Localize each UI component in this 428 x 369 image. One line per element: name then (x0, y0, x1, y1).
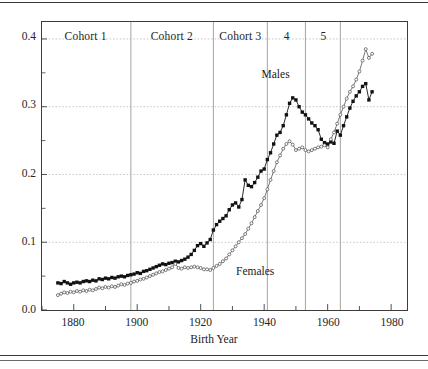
minor-gridlines-group (42, 39, 391, 310)
top-divider-rule (0, 2, 428, 3)
chart-canvas (42, 22, 407, 310)
series-lines-group (58, 49, 372, 295)
y-tick-label-0: 0.0 (2, 303, 36, 315)
figure-container: Cohort 1Cohort 2Cohort 345 MalesFemales … (0, 0, 428, 369)
x-tick-label-4: 1960 (306, 316, 350, 328)
plot-area (41, 21, 408, 311)
y-tick-label-3: 0.3 (2, 98, 36, 110)
x-tick-label-3: 1940 (242, 316, 286, 328)
x-axis-title: Birth Year (0, 333, 428, 345)
x-tick-label-1: 1900 (115, 316, 159, 328)
bottom-divider-rule-2 (0, 360, 428, 361)
x-tick-label-0: 1880 (51, 316, 95, 328)
cohort-label-5: 5 (273, 30, 373, 42)
y-tick-label-4: 0.4 (2, 30, 36, 42)
annotation-males: Males (262, 68, 290, 80)
x-tick-label-5: 1980 (370, 316, 414, 328)
series-markers-group (56, 48, 374, 297)
y-tick-label-1: 0.1 (2, 235, 36, 247)
annotation-females: Females (236, 265, 274, 277)
y-tick-label-2: 0.2 (2, 167, 36, 179)
gridlines-group (42, 39, 407, 242)
bottom-divider-rule-1 (0, 355, 428, 356)
x-tick-label-2: 1920 (179, 316, 223, 328)
cohort-label-1: Cohort 1 (36, 30, 136, 42)
